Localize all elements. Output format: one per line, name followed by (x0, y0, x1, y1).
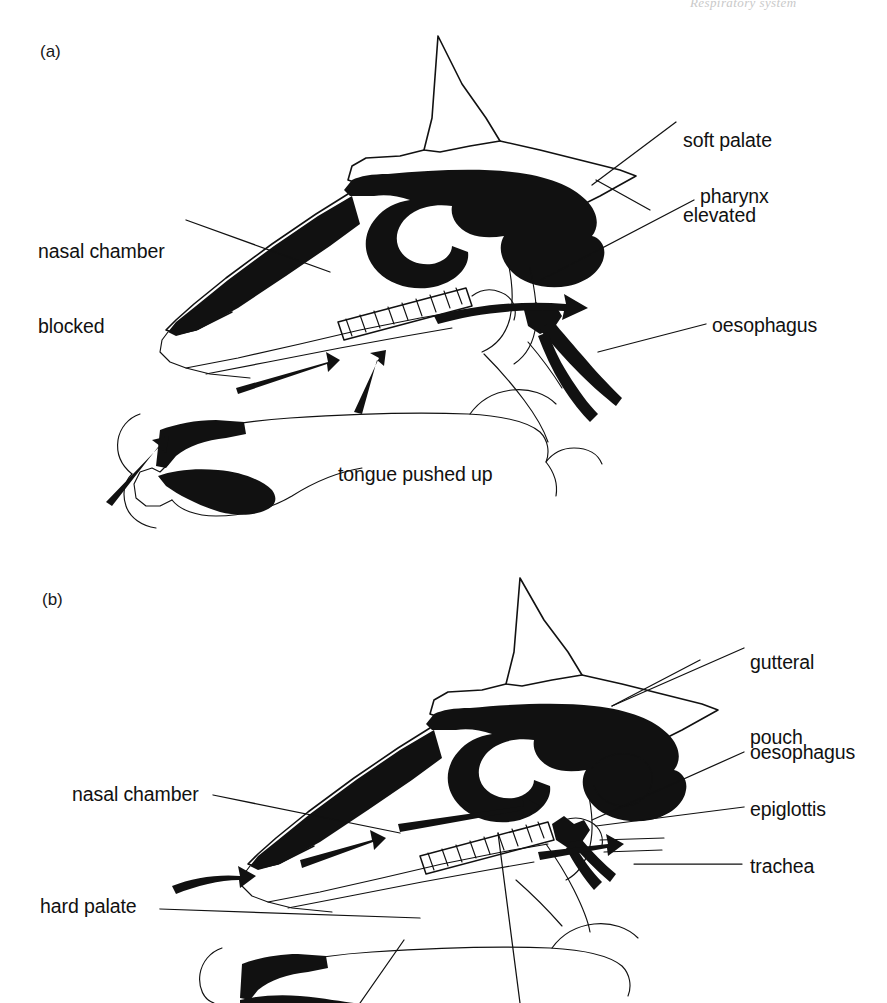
label-line: gutteral (750, 650, 814, 675)
label-trachea: trachea (750, 854, 814, 879)
label-gutteral-pouch: gutteral pouch (750, 600, 814, 800)
panel-tag-a: (a) (40, 42, 61, 62)
label-epiglottis: epiglottis (750, 797, 826, 822)
label-line: blocked (38, 314, 165, 339)
label-line: soft palate (683, 128, 772, 153)
label-nasal-chamber-blocked: nasal chamber blocked (38, 189, 165, 389)
panel-b-flow-arrows (172, 796, 624, 894)
label-line: nasal chamber (38, 239, 165, 264)
anatomy-figure: Respiratory system (a) (b) soft palate e… (0, 0, 887, 1003)
panel-b-artwork (160, 578, 744, 1003)
running-head: Respiratory system (690, 0, 797, 11)
label-soft-palate-elevated: soft palate elevated (683, 78, 772, 278)
label-hard-palate: hard palate (40, 894, 136, 919)
panel-tag-b: (b) (42, 590, 63, 610)
label-tongue-pushed-up: tongue pushed up (338, 462, 493, 487)
panel-a-artwork (106, 36, 706, 528)
label-oesophagus-b: oesophagus (750, 740, 855, 765)
label-nasal-chamber: nasal chamber (72, 782, 199, 807)
panel-b-leaders (160, 648, 744, 1003)
soft-palate-hatch-b (420, 822, 554, 874)
label-oesophagus-a: oesophagus (712, 313, 817, 338)
label-pharynx: pharynx (700, 184, 769, 209)
